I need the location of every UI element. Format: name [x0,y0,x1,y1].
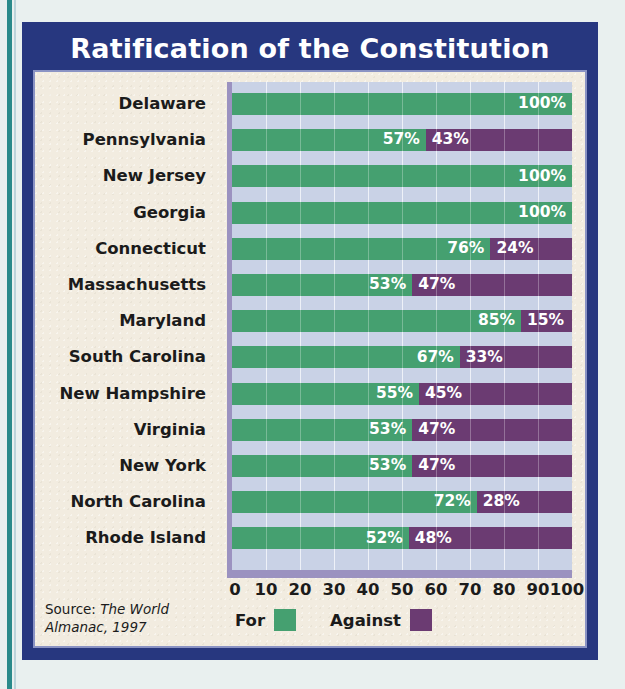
bar-gridline-overlay [436,527,437,549]
bar-gridline-overlay [266,129,267,151]
category-label: New York [35,448,220,484]
bar-value-for: 53% [363,458,412,474]
bar-gridline-overlay [504,165,505,187]
bar-segment-for: 57% [232,129,426,151]
bar-gridline-overlay [266,346,267,368]
legend-swatch-for [274,609,296,631]
bar-gridline-overlay [402,165,403,187]
bar-segment-against: 45% [419,383,572,405]
bar-row: 100% [232,86,572,122]
bar-gridline-overlay [368,491,369,513]
bar-gridline-overlay [300,165,301,187]
category-axis-labels: DelawarePennsylvaniaNew JerseyGeorgiaCon… [35,86,220,556]
bar-row: 85%15% [232,303,572,339]
bar-gridline-overlay [402,455,403,477]
bar-gridline-overlay [300,202,301,224]
bar-gridline-overlay [368,310,369,332]
bar-segment-against: 15% [521,310,572,332]
axis-tick-label: 20 [289,580,312,599]
axis-tick-label: 0 [229,580,240,599]
bar-gridline-overlay [538,419,539,441]
bar-gridline-overlay [300,491,301,513]
bar-gridline-overlay [470,527,471,549]
bar-gridline-overlay [334,383,335,405]
bar-row: 72%28% [232,484,572,520]
bar-gridline-overlay [334,346,335,368]
bar-gridline-overlay [368,202,369,224]
bar-row: 100% [232,195,572,231]
bar-segment-for: 72% [232,491,477,513]
bar-gridline-overlay [538,238,539,260]
bar-gridline-overlay [538,491,539,513]
category-label: Connecticut [35,231,220,267]
bar-gridline-overlay [538,93,539,115]
bar-gridline-overlay [334,491,335,513]
bar-gridline-overlay [538,310,539,332]
plot-area: 100%57%43%100%100%76%24%53%47%85%15%67%3… [232,82,572,570]
bar-segment-against: 33% [460,346,572,368]
bar-rows: 100%57%43%100%100%76%24%53%47%85%15%67%3… [232,82,572,570]
bar-gridline-overlay [504,129,505,151]
bar-gridline-overlay [436,491,437,513]
bar-gridline-overlay [538,527,539,549]
chart-legend: For Against [235,609,432,631]
category-label: Maryland [35,303,220,339]
bar-gridline-overlay [368,455,369,477]
bar-gridline-overlay [504,419,505,441]
bar-gridline-overlay [402,310,403,332]
bar-value-against: 48% [409,531,458,547]
bar-segment-for: 52% [232,527,409,549]
bar-segment-for: 53% [232,455,412,477]
bar-value-against: 15% [521,313,570,329]
bar-gridline-overlay [504,274,505,296]
bar-gridline-overlay [266,419,267,441]
bar-gridline-overlay [266,93,267,115]
bar-gridline-overlay [504,346,505,368]
bar-value-for: 100% [512,205,572,221]
axis-tick-label: 70 [459,580,482,599]
category-label: New Jersey [35,158,220,194]
bar-gridline-overlay [368,419,369,441]
bar-value-for: 55% [370,386,419,402]
bar-segment-against: 48% [409,527,572,549]
bar-gridline-overlay [368,383,369,405]
bar-gridline-overlay [402,202,403,224]
source-prefix: Source: [45,601,100,617]
bar-gridline-overlay [334,129,335,151]
bar-gridline-overlay [538,165,539,187]
bar-gridline-overlay [334,310,335,332]
bar-segment-for: 53% [232,274,412,296]
bar-gridline-overlay [334,527,335,549]
bar-segment-against: 28% [477,491,572,513]
axis-tick-label: 100 [550,580,584,599]
bar-gridline-overlay [368,274,369,296]
bar-value-for: 76% [441,241,490,257]
bar-row: 53%47% [232,267,572,303]
bar-gridline-overlay [300,274,301,296]
bar-gridline-overlay [300,310,301,332]
bar-gridline-overlay [504,310,505,332]
legend-label-against: Against [330,611,401,630]
bar-gridline-overlay [436,346,437,368]
bar-gridline-overlay [266,238,267,260]
bar-row: 100% [232,158,572,194]
axis-tick-label: 50 [391,580,414,599]
bar-gridline-overlay [368,93,369,115]
bar-gridline-overlay [266,491,267,513]
bar-value-for: 100% [512,96,572,112]
bar-value-against: 24% [490,241,539,257]
bar-gridline-overlay [436,129,437,151]
bar-segment-against: 24% [490,238,572,260]
value-axis: 0102030405060708090100 [232,580,572,602]
bar-gridline-overlay [436,93,437,115]
bar-gridline-overlay [470,346,471,368]
source-note: Source: The World Almanac, 1997 [45,600,235,636]
bar-gridline-overlay [470,455,471,477]
bar-gridline-overlay [504,383,505,405]
bar-row: 53%47% [232,412,572,448]
bar-gridline-overlay [504,455,505,477]
bar-gridline-overlay [266,274,267,296]
bar-gridline-overlay [436,383,437,405]
bar-gridline-overlay [504,93,505,115]
bar-gridline-overlay [402,491,403,513]
